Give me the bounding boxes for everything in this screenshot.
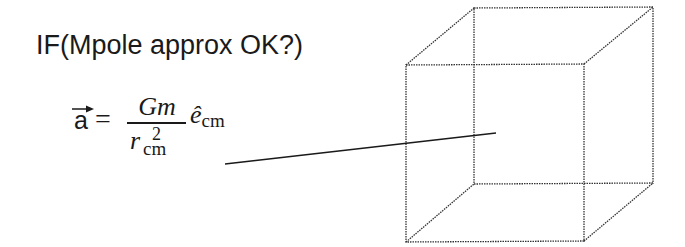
cube-diagram bbox=[0, 0, 685, 247]
pointer-line bbox=[225, 133, 496, 164]
wireframe-cube bbox=[406, 7, 653, 242]
